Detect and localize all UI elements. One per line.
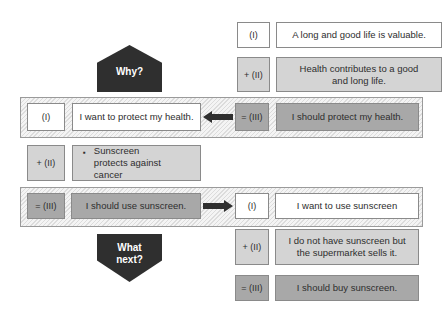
band2-left-text: I should use sunscreen. [71, 193, 201, 219]
top-premise-2-label: + (II) [237, 57, 270, 92]
bottom-conclusion-text: I should buy sunscreen. [275, 275, 419, 301]
top-premise-1-label: (I) [237, 22, 270, 48]
arrow-right-icon [203, 200, 233, 212]
what-next-label: What next? [110, 242, 150, 266]
top-premise-1-text: A long and good life is valuable. [276, 22, 442, 48]
top-premise-2-text: Health contributes to a good and long li… [276, 57, 442, 92]
band1-right-text: I should protect my health. [276, 103, 419, 131]
band2-left-label: = (III) [27, 193, 65, 219]
middle-premise-label: + (II) [27, 145, 65, 181]
why-label: Why? [116, 66, 143, 78]
bullet-icon: ▪ [83, 147, 86, 159]
what-next-arrow-shape: What next? [97, 234, 162, 282]
band2-right-text: I want to use sunscreen [275, 193, 419, 219]
arrow-left-icon [203, 111, 233, 123]
band1-left-label: (I) [27, 103, 65, 131]
band1-left-text: I want to protect my health. [72, 103, 201, 131]
middle-premise-text-box: ▪ Sunscreen protects against cancer [72, 145, 201, 181]
band2-right-label: (I) [235, 193, 269, 219]
band1-right-label: = (III) [235, 103, 269, 131]
bottom-conclusion-label: = (III) [235, 275, 269, 301]
bottom-premise-text: I do not have sunscreen but the supermar… [275, 229, 419, 265]
bottom-premise-label: + (II) [235, 229, 269, 265]
middle-premise-text: Sunscreen protects against cancer [94, 145, 174, 181]
why-arrow-shape: Why? [97, 45, 162, 92]
